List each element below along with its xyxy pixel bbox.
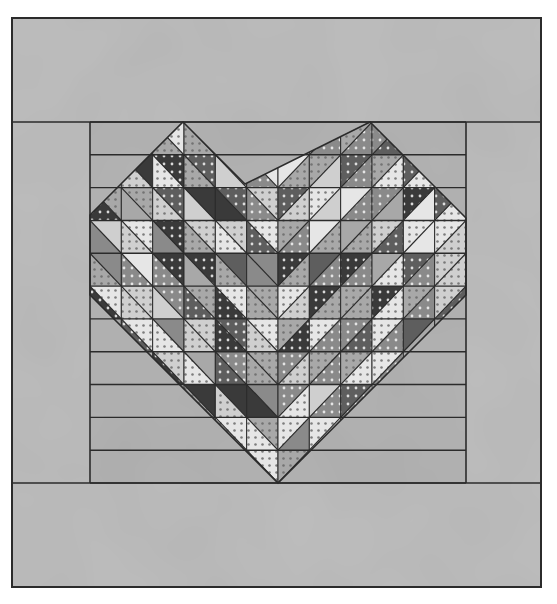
heart-quilt-illustration xyxy=(0,0,557,604)
